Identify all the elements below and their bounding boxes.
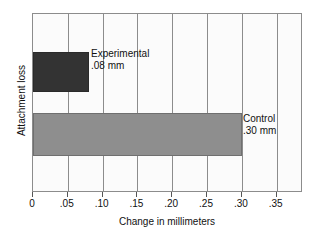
tick-mark-1 (67, 192, 68, 197)
tick-mark-3 (136, 192, 137, 197)
tick-mark-2 (102, 192, 103, 197)
gridline-tick-1 (68, 14, 69, 191)
tick-label-1: .05 (52, 198, 82, 210)
plot-area (32, 13, 302, 192)
gridline-tick-5 (207, 14, 208, 191)
bar-label-control: Control .30 mm (243, 113, 276, 136)
bar-experimental (33, 52, 89, 92)
y-axis-title: Attachment loss (16, 31, 27, 171)
tick-label-6: .30 (226, 198, 256, 210)
bar-label-experimental: Experimental .08 mm (91, 48, 149, 71)
tick-mark-5 (206, 192, 207, 197)
gridline-tick-7 (277, 14, 278, 191)
tick-mark-4 (171, 192, 172, 197)
tick-label-4: .20 (156, 198, 186, 210)
bar-chart-figure: Experimental .08 mm Control .30 mm 0 .05… (0, 0, 324, 240)
tick-mark-7 (276, 192, 277, 197)
bar-label-control-name: Control (243, 113, 276, 125)
tick-label-2: .10 (87, 198, 117, 210)
bar-control (33, 113, 242, 156)
bar-label-experimental-name: Experimental (91, 48, 149, 60)
gridline-tick-3 (137, 14, 138, 191)
tick-mark-0 (32, 192, 33, 197)
gridline-tick-6 (242, 14, 243, 191)
gridline-tick-2 (103, 14, 104, 191)
bar-label-control-value: .30 mm (243, 125, 276, 137)
tick-mark-6 (241, 192, 242, 197)
tick-label-5: .25 (191, 198, 221, 210)
gridline-tick-4 (172, 14, 173, 191)
tick-label-3: .15 (121, 198, 151, 210)
tick-label-7: .35 (261, 198, 291, 210)
x-axis-title: Change in millimeters (32, 216, 302, 227)
bar-label-experimental-value: .08 mm (91, 60, 149, 72)
tick-label-0: 0 (17, 198, 47, 210)
